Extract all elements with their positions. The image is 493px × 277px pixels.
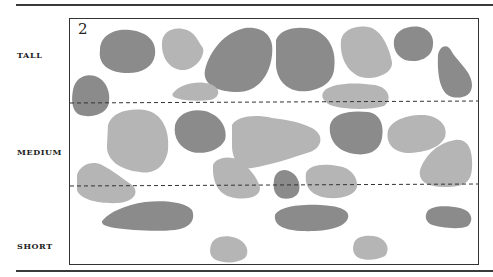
blob-dark [394, 27, 433, 62]
blob-dark [426, 206, 472, 228]
blob-dark [438, 46, 472, 97]
blob-light [107, 110, 168, 173]
blob-dark [100, 30, 156, 73]
blob-light [210, 236, 247, 262]
blob-light [322, 83, 388, 108]
blob-dark [72, 75, 109, 116]
blob-light [387, 115, 445, 153]
blob-light [353, 236, 388, 260]
blob-dark [175, 110, 226, 153]
blob-light [341, 27, 392, 78]
blob-dark [274, 170, 300, 199]
blob-light [232, 116, 320, 168]
blob-dark [275, 205, 348, 231]
blob-light [306, 165, 357, 198]
blob-shapes [0, 0, 493, 277]
blob-light [162, 29, 203, 70]
blob-dark [205, 28, 273, 92]
blob-dark [330, 111, 383, 154]
blob-dark [102, 201, 193, 231]
blob-light [172, 82, 218, 100]
tall-medium-divider [70, 101, 479, 103]
blob-dark [276, 28, 335, 92]
